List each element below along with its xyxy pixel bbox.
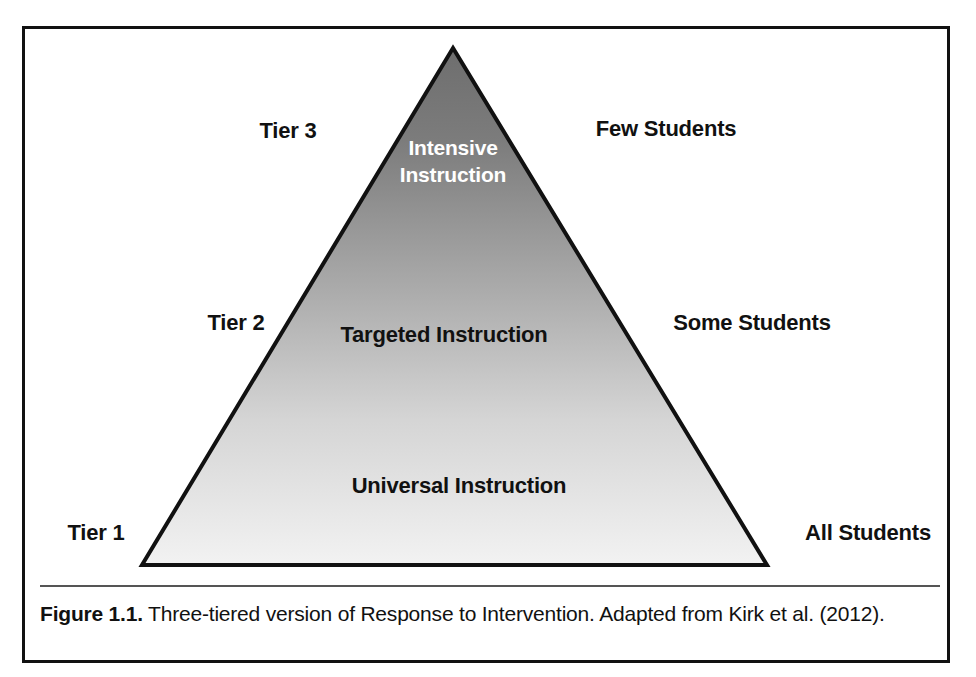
pyramid-label-universal: Universal Instruction	[352, 473, 567, 499]
few-students-text: Few Students	[596, 116, 737, 141]
all-students-text: All Students	[805, 520, 931, 545]
student-label-all: All Students	[805, 520, 931, 546]
targeted-instruction-text: Targeted Instruction	[340, 322, 547, 347]
student-label-some: Some Students	[673, 310, 831, 336]
pyramid-label-intensive-line2: Instruction	[400, 163, 506, 187]
tier-1-text: Tier 1	[67, 520, 124, 545]
intensive-instruction-text: Instruction	[400, 163, 506, 186]
tier-label-tier-3: Tier 3	[259, 118, 316, 144]
caption-figure-number: Figure 1.1.	[40, 602, 143, 625]
caption-divider	[40, 585, 940, 587]
tier-3-text: Tier 3	[259, 118, 316, 143]
figure-caption: Figure 1.1. Three-tiered version of Resp…	[40, 598, 930, 629]
pyramid-label-intensive-line1: Intensive	[408, 136, 497, 160]
tier-label-tier-2: Tier 2	[207, 310, 264, 336]
student-label-few: Few Students	[596, 116, 737, 142]
rti-pyramid-diagram: Tier 3 Tier 2 Tier 1 Few Students Some S…	[0, 0, 976, 585]
tier-2-text: Tier 2	[207, 310, 264, 335]
some-students-text: Some Students	[673, 310, 831, 335]
caption-body-text: Three-tiered version of Response to Inte…	[143, 602, 885, 625]
figure-container: Tier 3 Tier 2 Tier 1 Few Students Some S…	[0, 0, 976, 677]
tier-label-tier-1: Tier 1	[67, 520, 124, 546]
intensive-text: Intensive	[408, 136, 497, 159]
pyramid-label-targeted: Targeted Instruction	[340, 322, 547, 348]
universal-instruction-text: Universal Instruction	[352, 473, 567, 498]
